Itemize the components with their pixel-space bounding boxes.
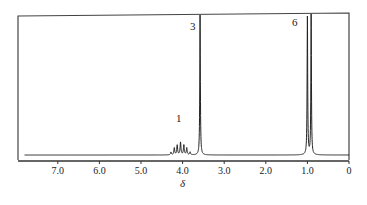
peak-label-1: 1	[176, 113, 182, 124]
x-tick-label: 3.0	[218, 166, 231, 176]
peak-label-3: 3	[190, 21, 196, 32]
x-tick-label: 5.0	[135, 166, 148, 176]
peak-label-6: 6	[292, 17, 298, 28]
x-tick-label: 1.0	[301, 166, 314, 176]
x-tick-label: 7.0	[52, 166, 65, 176]
x-tick-label: 0	[347, 166, 352, 176]
x-tick-label: 4.0	[176, 166, 189, 176]
x-tick-label: 6.0	[93, 166, 106, 176]
spectrum-trace	[25, 14, 349, 155]
plot-frame	[18, 13, 349, 160]
x-tick-label: 2.0	[260, 166, 273, 176]
x-axis-label: δ	[180, 178, 185, 189]
